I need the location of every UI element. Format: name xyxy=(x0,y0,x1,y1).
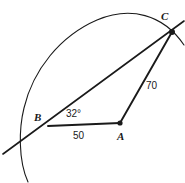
vertex-label-c: C xyxy=(161,11,168,22)
vertex-label-b: B xyxy=(34,112,41,123)
segment-ac xyxy=(120,32,172,123)
angle-measure-b: 32° xyxy=(66,109,81,119)
point-a-dot xyxy=(117,120,122,125)
vertex-label-a: A xyxy=(117,131,124,142)
side-length-ab: 50 xyxy=(73,131,84,141)
segment-ba xyxy=(48,123,120,126)
side-length-ac: 70 xyxy=(146,81,157,91)
point-c-dot xyxy=(169,29,175,35)
geometry-canvas xyxy=(0,0,185,183)
geometry-diagram: C B A 32° 50 70 xyxy=(0,0,185,183)
